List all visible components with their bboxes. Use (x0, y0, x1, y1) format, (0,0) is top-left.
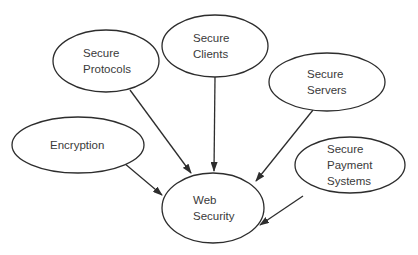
web-security-diagram: SecureProtocolsSecureClientsSecureServer… (0, 0, 418, 255)
edge-secure-payment-systems-to-web-security (260, 196, 303, 225)
web-security-node (162, 173, 264, 243)
edge-secure-protocols-to-web-security (130, 90, 191, 173)
secure-clients-node (162, 15, 268, 77)
encryption-label: Encryption (50, 139, 104, 151)
secure-servers-node (269, 53, 385, 111)
edge-encryption-to-web-security (124, 163, 162, 195)
secure-protocols-node (53, 30, 159, 92)
diagram-canvas: SecureProtocolsSecureClientsSecureServer… (0, 0, 418, 255)
edge-secure-clients-to-web-security (214, 77, 215, 171)
